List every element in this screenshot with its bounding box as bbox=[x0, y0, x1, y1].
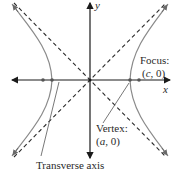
focus-point-left bbox=[41, 78, 45, 82]
x-axis-label: x bbox=[162, 83, 168, 95]
focus-label: Focus: bbox=[140, 54, 169, 66]
y-axis-label: y bbox=[94, 0, 100, 11]
focus-coordinates: (c, 0) bbox=[142, 67, 166, 80]
hyperbola-diagram: y x Focus: (c, 0) Vertex: (a, 0) Transve… bbox=[0, 0, 180, 185]
focus-point-right bbox=[137, 78, 141, 82]
vertex-leader-line bbox=[103, 83, 129, 123]
vertex-label: Vertex: bbox=[96, 122, 128, 134]
transverse-axis-label: Transverse axis bbox=[36, 159, 104, 171]
vertex-coordinates: (a, 0) bbox=[96, 135, 120, 148]
vertex-point-left bbox=[50, 78, 54, 82]
vertex-point-right bbox=[128, 78, 132, 82]
origin-point bbox=[89, 79, 92, 82]
